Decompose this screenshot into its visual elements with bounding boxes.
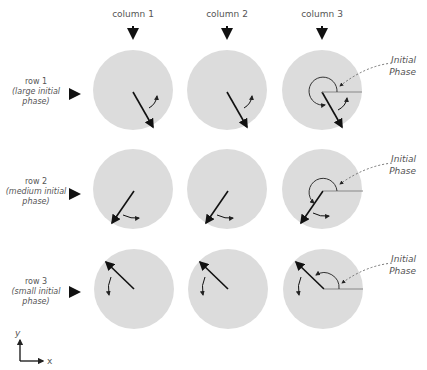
column-label-3: column 3 <box>301 9 343 19</box>
column-arrows <box>133 26 322 38</box>
svg-text:row 2: row 2 <box>25 177 47 186</box>
svg-text:Initial: Initial <box>391 154 416 164</box>
x-axis-label: x <box>47 356 53 366</box>
svg-text:Phase: Phase <box>389 166 416 176</box>
column-label-2: column 2 <box>206 9 248 19</box>
axes-icon <box>20 340 43 361</box>
svg-text:(medium initial: (medium initial <box>6 187 67 196</box>
svg-text:Phase: Phase <box>389 67 416 77</box>
row-arrows <box>69 94 79 292</box>
svg-text:row 1: row 1 <box>25 77 47 86</box>
initial-phase-label-2: Initial Phase <box>389 154 416 176</box>
svg-text:(small initial: (small initial <box>12 287 62 296</box>
svg-text:(large initial: (large initial <box>12 87 61 96</box>
svg-text:phase): phase) <box>21 297 49 306</box>
initial-phase-label-3: Initial Phase <box>389 254 416 276</box>
svg-text:Phase: Phase <box>389 266 416 276</box>
row-label-2: row 2 (medium initial phase) <box>6 177 67 206</box>
initial-phase-label-1: Initial Phase <box>389 55 416 77</box>
y-axis-label: y <box>14 328 21 338</box>
phase-diagram: column 1 column 2 column 3 row 1 (large … <box>0 0 427 370</box>
row-label-1: row 1 (large initial phase) <box>12 77 61 106</box>
svg-text:phase): phase) <box>21 97 49 106</box>
svg-text:Initial: Initial <box>391 254 416 264</box>
column-label-1: column 1 <box>112 9 154 19</box>
svg-text:phase): phase) <box>21 197 49 206</box>
row-label-3: row 3 (small initial phase) <box>12 277 62 306</box>
svg-text:row 3: row 3 <box>25 277 47 286</box>
svg-text:Initial: Initial <box>391 55 416 65</box>
